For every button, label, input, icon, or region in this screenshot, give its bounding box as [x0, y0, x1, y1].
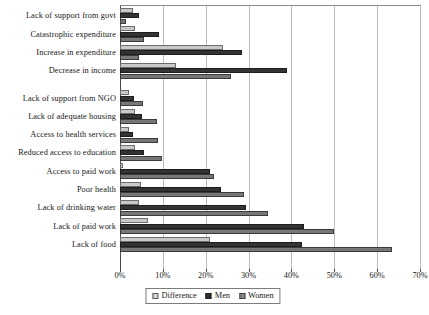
category-row: Lack of adequate housing — [0, 109, 429, 127]
x-tick-label-50: 50% — [327, 271, 342, 280]
bar-difference — [120, 237, 210, 242]
bar-women — [120, 211, 268, 216]
bar-women — [120, 174, 214, 179]
bar-women — [120, 247, 392, 252]
legend-item-difference: Difference — [152, 291, 196, 300]
category-row: Reduced access to education — [0, 145, 429, 163]
bar-difference — [120, 127, 129, 132]
bar-men — [120, 169, 210, 174]
category-row: Catastrophic expenditure — [0, 26, 429, 44]
x-tick-label-30: 30% — [241, 271, 256, 280]
category-row: Lack of support from govt — [0, 8, 429, 26]
bar-difference — [120, 163, 123, 168]
bar-women — [120, 55, 139, 60]
bar-women — [120, 74, 231, 79]
category-label: Lack of food — [72, 240, 116, 249]
category-label: Lack of paid work — [53, 222, 116, 231]
bar-difference — [120, 90, 129, 95]
legend-swatch-difference — [152, 293, 158, 299]
category-label: Reduced access to education — [18, 148, 116, 157]
bar-difference — [120, 145, 135, 150]
bar-men — [120, 96, 134, 101]
bar-men — [120, 50, 242, 55]
bar-men — [120, 32, 159, 37]
category-row: Lack of paid work — [0, 218, 429, 236]
category-label: Poor health — [77, 185, 116, 194]
category-row: Lack of food — [0, 237, 429, 255]
bar-women — [120, 229, 334, 234]
category-row: Lack of drinking water — [0, 200, 429, 218]
bar-men — [120, 187, 221, 192]
bar-difference — [120, 8, 133, 13]
category-label: Lack of adequate housing — [28, 112, 116, 121]
bar-difference — [120, 63, 176, 68]
bar-men — [120, 224, 304, 229]
x-tick-label-40: 40% — [284, 271, 299, 280]
bar-men — [120, 205, 246, 210]
bar-men — [120, 114, 142, 119]
bar-difference — [120, 26, 135, 31]
category-row: Increase in expenditure — [0, 45, 429, 63]
bar-difference — [120, 182, 141, 187]
category-row: Access to health services — [0, 127, 429, 145]
bar-difference — [120, 109, 135, 114]
category-label: Lack of support from govt — [26, 11, 116, 20]
category-label: Lack of drinking water — [38, 203, 116, 212]
bar-men — [120, 68, 287, 73]
category-label: Lack of support from NGO — [23, 94, 116, 103]
x-tick-label-70: 70% — [412, 271, 427, 280]
bar-men — [120, 242, 302, 247]
category-row: Decrease in income — [0, 63, 429, 81]
bar-difference — [120, 218, 148, 223]
x-tick-label-60: 60% — [370, 271, 385, 280]
bar-men — [120, 132, 133, 137]
horizontal-bar-chart: 0%10%20%30%40%50%60%70% Lack of support … — [0, 0, 429, 315]
legend-swatch-men — [206, 293, 212, 299]
bar-men — [120, 13, 139, 18]
legend-label-men: Men — [215, 291, 230, 300]
bar-women — [120, 119, 157, 124]
category-label: Increase in expenditure — [36, 48, 116, 57]
legend-item-women: Women — [239, 291, 274, 300]
category-row: Lack of support from NGO — [0, 90, 429, 108]
legend-item-men: Men — [206, 291, 230, 300]
bar-women — [120, 138, 158, 143]
bar-men — [120, 150, 144, 155]
chart-legend: Difference Men Women — [145, 288, 280, 304]
bar-women — [120, 156, 162, 161]
legend-label-difference: Difference — [161, 291, 196, 300]
bar-women — [120, 19, 126, 24]
category-label: Access to health services — [30, 130, 116, 139]
bar-difference — [120, 45, 223, 50]
category-label: Access to paid work — [47, 167, 116, 176]
bar-difference — [120, 200, 139, 205]
x-tick-label-20: 20% — [198, 271, 213, 280]
legend-label-women: Women — [248, 291, 274, 300]
x-tick-label-10: 10% — [155, 271, 170, 280]
x-tick-label-0: 0% — [114, 271, 125, 280]
category-label: Decrease in income — [49, 66, 116, 75]
category-label: Catastrophic expenditure — [30, 30, 116, 39]
category-row: Poor health — [0, 182, 429, 200]
bar-women — [120, 101, 143, 106]
category-row: Access to paid work — [0, 163, 429, 181]
bar-women — [120, 192, 244, 197]
legend-swatch-women — [239, 293, 245, 299]
bar-women — [120, 37, 144, 42]
